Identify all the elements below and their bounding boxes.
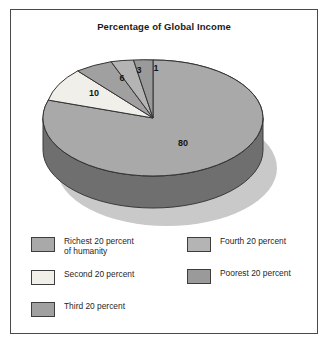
legend-swatch-richest bbox=[31, 237, 55, 252]
pie-label-richest: 80 bbox=[178, 138, 188, 148]
chart-frame: Percentage of Global Income 80 10 6 3 bbox=[10, 9, 318, 334]
chart-legend: Richest 20 percent of humanity Second 20… bbox=[27, 236, 315, 328]
page-title: Percentage of Global Income bbox=[11, 21, 317, 32]
legend-label-fourth: Fourth 20 percent bbox=[220, 236, 286, 246]
pie-label-poorest: 1 bbox=[153, 63, 158, 73]
pie-label-fourth: 3 bbox=[136, 65, 141, 75]
legend-label-richest: Richest 20 percent of humanity bbox=[64, 236, 134, 257]
legend-label-third: Third 20 percent bbox=[64, 301, 125, 311]
pie-label-third: 6 bbox=[119, 73, 124, 83]
legend-item-third[interactable]: Third 20 percent bbox=[31, 301, 181, 321]
legend-column-right: Fourth 20 percent Poorest 20 percent bbox=[187, 236, 315, 300]
pie-chart: 80 10 6 3 1 bbox=[11, 34, 319, 239]
legend-swatch-second bbox=[31, 270, 55, 285]
legend-item-fourth[interactable]: Fourth 20 percent bbox=[187, 236, 315, 256]
legend-item-poorest[interactable]: Poorest 20 percent bbox=[187, 268, 315, 288]
legend-item-second[interactable]: Second 20 percent bbox=[31, 269, 181, 289]
legend-swatch-fourth bbox=[187, 237, 211, 252]
legend-label-poorest: Poorest 20 percent bbox=[220, 268, 291, 278]
legend-column-left: Richest 20 percent of humanity Second 20… bbox=[31, 236, 181, 333]
legend-item-richest[interactable]: Richest 20 percent of humanity bbox=[31, 236, 181, 257]
legend-swatch-third bbox=[31, 302, 55, 317]
legend-label-second: Second 20 percent bbox=[64, 269, 134, 279]
pie-chart-svg: 80 10 6 3 1 bbox=[11, 34, 319, 239]
pie-label-second: 10 bbox=[89, 88, 99, 98]
legend-swatch-poorest bbox=[187, 269, 211, 284]
